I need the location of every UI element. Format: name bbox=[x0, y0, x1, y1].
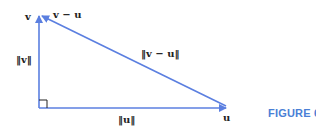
label-norm-v-minus-u: ‖v − u‖ bbox=[141, 49, 179, 59]
label-v: v bbox=[25, 12, 31, 22]
label-norm-v: ‖v‖ bbox=[16, 55, 32, 65]
label-norm-u: ‖u‖ bbox=[118, 115, 135, 125]
right-triangle-diagram: v v − u ‖v‖ ‖v − u‖ u ‖u‖ FIGURE 6.2 bbox=[0, 0, 316, 133]
right-angle-marker bbox=[39, 100, 47, 108]
figure-caption: FIGURE 6.2 bbox=[268, 107, 316, 119]
label-v-minus-u: v − u bbox=[53, 10, 81, 20]
vector-v-minus-u-arrow bbox=[42, 16, 226, 106]
label-u: u bbox=[223, 113, 230, 123]
